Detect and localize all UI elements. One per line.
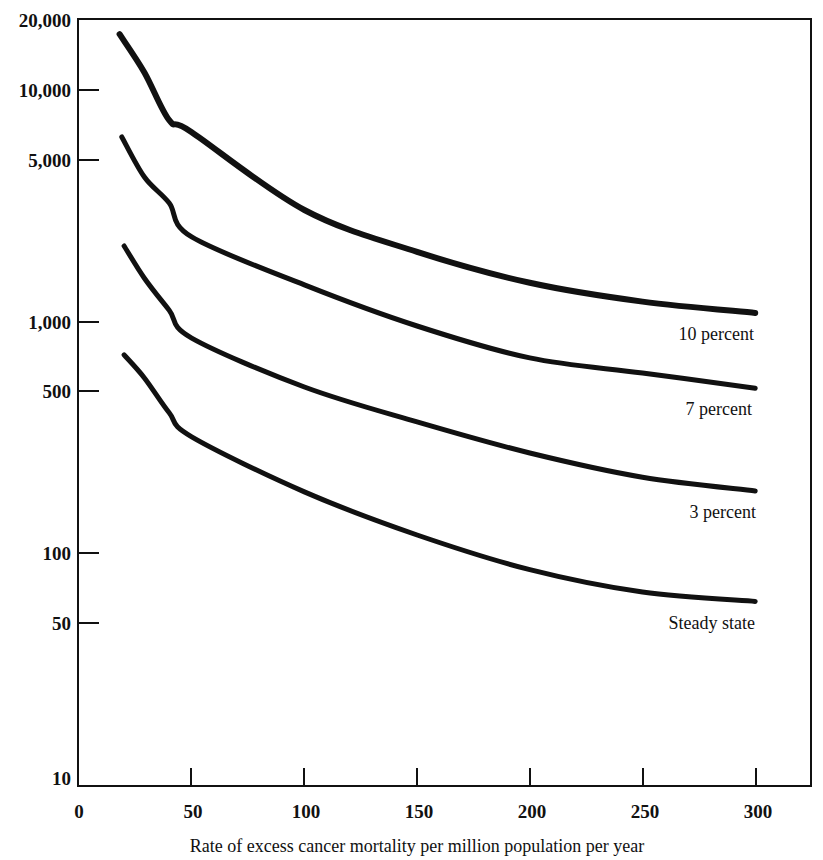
y-tick-label: 10,000: [19, 80, 71, 101]
chart: 20,000 10,000 5,000 1,000 500 100 50 10 …: [0, 0, 823, 860]
x-tick-label: 150: [405, 801, 434, 822]
y-tick-label: 5,000: [28, 150, 71, 171]
x-tick-label: 0: [74, 801, 84, 822]
y-tick-label: 50: [52, 613, 71, 634]
x-tick-label: 250: [631, 801, 660, 822]
y-tick-label: 100: [43, 543, 72, 564]
curves: [120, 34, 756, 601]
y-tick-label: 500: [43, 381, 72, 402]
series-label-7-percent: 7 percent: [686, 399, 752, 419]
x-tick-label: 100: [292, 801, 321, 822]
y-tick-label: 1,000: [28, 312, 71, 333]
y-tick-label: 20,000: [19, 10, 71, 31]
x-axis-title: Rate of excess cancer mortality per mill…: [190, 836, 644, 856]
x-axis: 0 50 100 150 200 250 300 Rate of excess …: [74, 768, 772, 856]
x-tick-label: 300: [744, 801, 773, 822]
series-label-10-percent: 10 percent: [679, 324, 754, 344]
curve-10-percent: [120, 34, 756, 313]
x-tick-label: 200: [518, 801, 547, 822]
series-label-3-percent: 3 percent: [690, 502, 756, 522]
series-label-steady-state: Steady state: [669, 613, 755, 633]
x-tick-label: 50: [184, 801, 203, 822]
y-tick-label: 10: [52, 768, 71, 789]
y-axis: 20,000 10,000 5,000 1,000 500 100 50 10: [19, 10, 99, 789]
